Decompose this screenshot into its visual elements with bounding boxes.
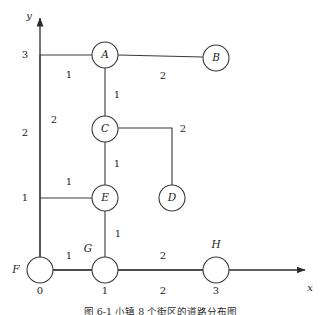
edge-weight-A-B: 2 — [160, 70, 166, 81]
x-tick-labels: 0 1 2 3 — [37, 285, 219, 296]
x-tick-label-2: 2 — [160, 285, 166, 296]
x-tick-label-1: 1 — [102, 285, 108, 296]
edge-weight-C-D: 2 — [180, 123, 186, 134]
node-A[interactable]: A — [92, 42, 118, 68]
figure-container: x y 0 1 2 3 1 2 3 — [0, 0, 321, 315]
edge-weight-F-G: 1 — [66, 250, 72, 261]
node-B-label: B — [211, 51, 220, 63]
figure-caption: 图 6-1 小镇 8 个街区的道路分布图 — [0, 306, 321, 315]
node-D[interactable]: D — [159, 185, 185, 211]
node-B[interactable]: B — [203, 45, 229, 71]
node-C[interactable]: C — [92, 116, 118, 142]
edge-A-B — [118, 55, 203, 57]
edge-weight-axis-A: 1 — [66, 69, 72, 80]
y-axis-label: y — [25, 10, 32, 21]
edge-C-D — [118, 128, 172, 185]
node-G[interactable]: G — [84, 242, 118, 283]
x-tick-label-0: 0 — [37, 285, 43, 296]
edge-weight-C-E: 1 — [114, 158, 120, 169]
node-A-label: A — [100, 48, 109, 60]
node-F-circle[interactable] — [27, 257, 53, 283]
node-C-label: C — [101, 122, 109, 134]
node-E-label: E — [100, 191, 109, 203]
node-H[interactable]: H — [203, 238, 229, 283]
node-G-circle[interactable] — [92, 257, 118, 283]
y-tick-labels: 1 2 3 — [22, 49, 28, 203]
node-H-circle[interactable] — [203, 257, 229, 283]
x-tick-label-3: 3 — [213, 285, 219, 296]
node-F[interactable]: F — [11, 257, 53, 283]
graph-diagram: x y 0 1 2 3 1 2 3 — [0, 0, 321, 315]
node-F-label: F — [11, 263, 20, 275]
edge-weight-F-E: 1 — [66, 176, 72, 187]
y-tick-label-2: 2 — [22, 127, 28, 138]
edges-group — [40, 55, 203, 270]
edge-weight-F-A: 2 — [51, 114, 57, 125]
y-tick-label-1: 1 — [22, 192, 28, 203]
edge-weight-E-G: 1 — [115, 228, 121, 239]
node-H-label: H — [210, 238, 221, 250]
node-G-label: G — [84, 242, 92, 254]
y-tick-label-3: 3 — [22, 49, 28, 60]
x-axis-label: x — [307, 282, 313, 293]
edge-weight-G-H: 2 — [160, 250, 166, 261]
node-D-label: D — [167, 191, 177, 203]
edge-weight-labels: 2 1 2 1 2 1 1 1 1 2 — [51, 69, 186, 261]
edge-weight-A-C: 1 — [114, 89, 120, 100]
node-E[interactable]: E — [92, 185, 118, 211]
